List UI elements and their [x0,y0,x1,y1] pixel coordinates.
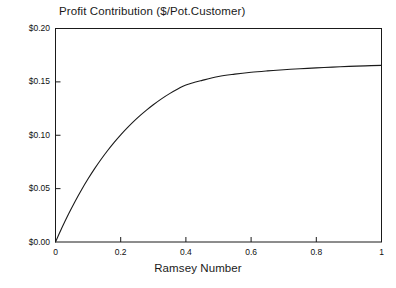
x-tick-label: 1 [367,247,396,257]
y-tick-label: $0.05 [16,183,50,193]
y-axis-tick-marks [56,82,61,189]
profit-contribution-curve [56,65,382,242]
x-tick-label: 0.2 [106,247,136,257]
x-tick-label: 0.4 [171,247,201,257]
y-tick-label: $0.10 [16,130,50,140]
x-tick-label: 0 [41,247,71,257]
x-tick-label: 0.8 [301,247,331,257]
x-axis-tick-marks [121,237,317,242]
y-tick-label: $0.15 [16,76,50,86]
plot-frame [56,29,382,243]
plot-canvas [0,0,396,288]
chart-figure: Profit Contribution ($/Pot.Customer) $0.… [0,0,396,288]
y-tick-label: $0.00 [16,237,50,247]
x-axis-title: Ramsey Number [0,262,396,274]
x-tick-label: 0.6 [236,247,266,257]
y-tick-label: $0.20 [16,23,50,33]
